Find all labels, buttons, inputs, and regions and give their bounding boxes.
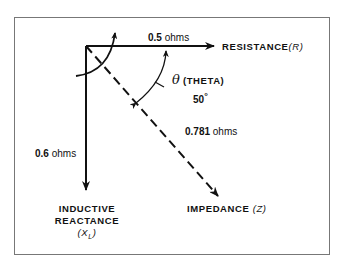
reactance-symbol: (XL) <box>47 227 127 243</box>
reactance-number: 0.6 <box>35 148 49 159</box>
reactance-symbol-close: ) <box>93 227 97 238</box>
reactance-label: INDUCTIVE REACTANCE (XL) <box>47 203 127 243</box>
impedance-unit: ohms <box>213 126 237 137</box>
angle-number: 50 <box>193 94 204 105</box>
angle-label: θ (THETA) <box>172 74 224 87</box>
reactance-symbol-main: (X <box>78 227 89 238</box>
impedance-value: 0.781 ohms <box>185 126 237 138</box>
resistance-unit: ohms <box>165 32 189 43</box>
theta-symbol: θ <box>172 72 180 87</box>
resistance-symbol: (R) <box>289 41 304 52</box>
rotation-arrow-icon <box>76 33 115 76</box>
reactance-label-line2: REACTANCE <box>47 215 127 227</box>
degree-symbol: ° <box>204 91 208 101</box>
resistance-value: 0.5 ohms <box>148 32 189 44</box>
reactance-label-line1: INDUCTIVE <box>47 203 127 215</box>
reactance-unit: ohms <box>52 148 76 159</box>
impedance-label-text: IMPEDANCE <box>187 203 249 214</box>
resistance-label-text: RESISTANCE <box>222 41 289 52</box>
impedance-number: 0.781 <box>185 126 210 137</box>
angle-value: 50° <box>193 90 208 106</box>
resistance-number: 0.5 <box>148 32 162 43</box>
theta-name: (THETA) <box>183 75 225 86</box>
reactance-value: 0.6 ohms <box>35 148 76 160</box>
resistance-label: RESISTANCE(R) <box>222 41 304 53</box>
angle-arc-icon <box>136 51 166 103</box>
impedance-label: IMPEDANCE (Z) <box>187 203 267 215</box>
impedance-symbol: (Z) <box>253 203 267 214</box>
impedance-vector <box>86 46 218 196</box>
